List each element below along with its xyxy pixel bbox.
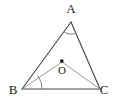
vertex-label-a: A [66,1,76,16]
vertex-label-c: C [100,82,109,97]
point-dot-o [60,60,63,63]
segment-ab [22,22,71,89]
angle-arc-a [64,32,76,34]
triangle-diagram-canvas: A B C O [0,0,118,101]
point-label-o: O [58,64,66,76]
geometry-figure: A B C O [0,0,118,101]
vertex-label-b: B [9,82,18,97]
